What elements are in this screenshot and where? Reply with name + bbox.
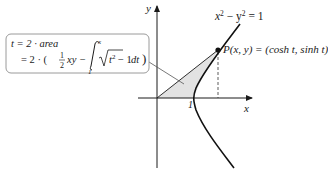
- y-axis-label: y: [145, 2, 151, 14]
- differential: dt: [131, 54, 140, 65]
- formula-close-paren: ): [142, 51, 146, 66]
- tick-one-label: 1: [188, 99, 193, 110]
- formula-line2-prefix: = 2 · (: [21, 54, 48, 66]
- callout-line: [149, 62, 184, 84]
- half-numerator: 1: [60, 51, 64, 60]
- curve-equation: x2 − y2 = 1: [214, 9, 264, 23]
- point-p: [215, 47, 220, 52]
- hyperbola-diagram: y x 1 x2 − y2 = 1 P(x, y) = (cosh t, sin…: [0, 0, 328, 175]
- xy-term: xy −: [66, 54, 86, 65]
- point-label: P(x, y) = (cosh t, sinh t): [222, 43, 328, 56]
- formula-line1: t = 2 · area: [11, 38, 58, 49]
- x-axis-label: x: [243, 102, 249, 114]
- half-denominator: 2: [60, 61, 64, 70]
- integral-lower: 1: [88, 68, 92, 76]
